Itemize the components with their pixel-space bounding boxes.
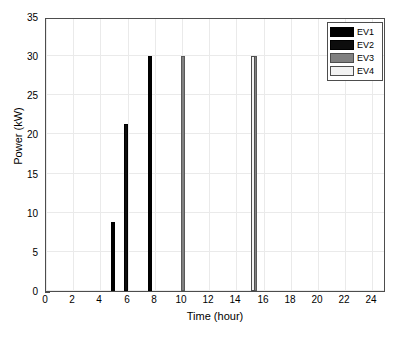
legend-item-ev3[interactable]: EV3 xyxy=(330,52,380,64)
ev-power-chart-figure: Power (kW) Time (hour) 05101520253035 02… xyxy=(0,0,400,339)
y-tick-label: 5 xyxy=(0,248,38,258)
legend-swatch-ev4 xyxy=(330,66,354,76)
y-tick-label: 20 xyxy=(0,130,38,140)
legend-swatch-ev2 xyxy=(330,40,354,50)
legend-swatch-ev3 xyxy=(330,53,354,63)
x-tick-label: 22 xyxy=(329,294,359,306)
y-tick-label: 15 xyxy=(0,170,38,180)
x-tick-label: 10 xyxy=(166,294,196,306)
legend-item-ev4[interactable]: EV4 xyxy=(330,65,380,77)
bar-ev3 xyxy=(181,56,185,291)
x-tick-label: 16 xyxy=(248,294,278,306)
y-tick-label: 35 xyxy=(0,13,38,23)
y-tick-label: 10 xyxy=(0,209,38,219)
legend-item-ev2[interactable]: EV2 xyxy=(330,39,380,51)
x-axis-label: Time (hour) xyxy=(45,310,385,322)
gridline-horizontal xyxy=(46,94,384,95)
legend-label: EV3 xyxy=(357,53,374,63)
x-tick-label: 6 xyxy=(112,294,142,306)
x-tick-label: 12 xyxy=(193,294,223,306)
x-tick-label: 24 xyxy=(356,294,386,306)
gridline-horizontal xyxy=(46,133,384,134)
x-tick-label: 8 xyxy=(139,294,169,306)
y-tick-label: 30 xyxy=(0,52,38,62)
gridline-horizontal xyxy=(46,173,384,174)
legend-label: EV1 xyxy=(357,27,374,37)
legend-label: EV4 xyxy=(357,66,374,76)
x-tick-label: 20 xyxy=(302,294,332,306)
legend-label: EV2 xyxy=(357,40,374,50)
bar-ev1 xyxy=(148,56,152,291)
bar-ev4 xyxy=(251,56,255,291)
gridline-horizontal xyxy=(46,251,384,252)
x-tick-label: 4 xyxy=(84,294,114,306)
x-tick-label: 18 xyxy=(275,294,305,306)
legend-item-ev1[interactable]: EV1 xyxy=(330,26,380,38)
gridline-horizontal xyxy=(46,290,384,291)
x-tick-label: 14 xyxy=(220,294,250,306)
bar-ev1 xyxy=(111,222,115,291)
x-tick-label: 0 xyxy=(30,294,60,306)
bar-ev2 xyxy=(124,124,128,291)
legend: EV1EV2EV3EV4 xyxy=(327,22,383,81)
x-tick-label: 2 xyxy=(57,294,87,306)
legend-swatch-ev1 xyxy=(330,27,354,37)
y-tick-label: 25 xyxy=(0,91,38,101)
gridline-horizontal xyxy=(46,212,384,213)
y-tick-mark xyxy=(45,292,50,293)
